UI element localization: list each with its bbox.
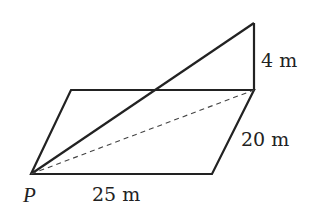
- diagram-canvas: P 25 m 20 m 4 m: [0, 0, 319, 214]
- label-base-length: 25 m: [92, 183, 140, 205]
- label-side-length: 20 m: [241, 128, 289, 150]
- label-point-p: P: [22, 183, 36, 207]
- label-height: 4 m: [261, 49, 297, 71]
- slant-line-p-to-top: [31, 23, 254, 174]
